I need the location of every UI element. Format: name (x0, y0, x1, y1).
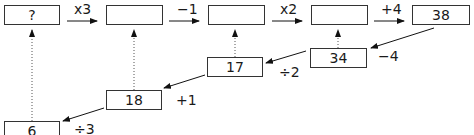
box-after-times-2[interactable] (311, 5, 368, 25)
start-box-unknown: ? (4, 5, 60, 25)
op-label-plus-4: +4 (381, 1, 402, 17)
op-label-times-3: x3 (74, 1, 91, 17)
reverse-box-34: 34 (310, 48, 367, 68)
reverse-box-17: 17 (207, 57, 263, 77)
reverse-box-6: 6 (4, 121, 60, 135)
result-box: 38 (412, 5, 470, 25)
reverse-op-divide-2: ÷2 (279, 64, 300, 80)
box-after-minus-1[interactable] (208, 5, 265, 25)
box-after-times-3[interactable] (106, 5, 163, 25)
reverse-op-minus-4: −4 (378, 48, 399, 64)
reverse-op-plus-1: +1 (176, 92, 197, 108)
reverse-box-18: 18 (106, 90, 162, 110)
op-label-times-2: x2 (280, 1, 297, 17)
reverse-op-divide-3: ÷3 (74, 121, 95, 135)
op-label-minus-1: −1 (177, 1, 198, 17)
